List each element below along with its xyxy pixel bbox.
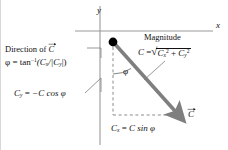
origin-point-dot	[109, 38, 118, 47]
phi-definition-formula: φ = tan−1(Cx/|Cy|)	[5, 58, 66, 67]
vector-c-symbol: C	[188, 110, 194, 119]
phi-angle-label: φ	[123, 67, 128, 76]
leader-line-cy	[85, 78, 101, 93]
direction-vector-symbol: C	[48, 45, 54, 54]
direction-vector-letter: C	[48, 44, 54, 54]
cy-component-formula: Cy = −C cos φ	[14, 89, 66, 98]
phi-def-arg-mid: /|C	[48, 57, 59, 67]
x-axis-label: x	[216, 21, 220, 30]
angle-arc	[113, 69, 131, 75]
phi-def-arg-close: |)	[62, 57, 67, 67]
square-root-group: √Cx2 + Cy2	[151, 46, 190, 57]
cx-component-formula: Cx = C sin φ	[111, 124, 155, 133]
cy-rhs: −C cos φ	[32, 88, 66, 98]
magnitude-formula: C =√Cx2 + Cy2	[138, 46, 191, 57]
leader-line-magnitude	[144, 61, 165, 80]
direction-label: Direction of C	[5, 45, 54, 54]
magnitude-term2-sup: 2	[187, 48, 190, 54]
vector-c-letter: C	[188, 109, 194, 119]
phi-def-tan: tan	[20, 57, 31, 67]
phi-def-arg-open: (C	[37, 57, 46, 67]
magnitude-label: Magnitude	[144, 33, 181, 42]
vector-c-label: C	[188, 110, 194, 119]
y-axis-label: y	[97, 6, 101, 15]
direction-label-text: Direction of	[5, 44, 46, 54]
radicand: Cx2 + Cy2	[156, 48, 190, 58]
vector-components-figure: y x Direction of C φ = tan−1(Cx/|Cy|) Ma…	[0, 0, 228, 150]
cx-rhs: C sin φ	[129, 123, 155, 133]
